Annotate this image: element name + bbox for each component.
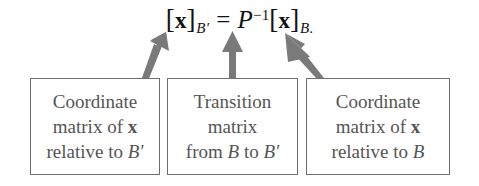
box-middle-basis-to: B′ xyxy=(263,141,279,162)
box-middle-line-3: from B to B′ xyxy=(186,139,279,164)
box-left-vector-x: x xyxy=(128,116,138,137)
box-right-line-3: relative to B xyxy=(332,139,425,164)
left-bracket-close: ] xyxy=(187,4,196,34)
callout-box-coordinate-matrix-b-prime: Coordinate matrix of x relative to B′ xyxy=(30,78,160,175)
box-middle-basis-from: B xyxy=(228,141,240,162)
box-left-line-3-pre: relative to xyxy=(46,141,127,162)
box-right-line-2-pre: matrix of xyxy=(336,116,411,137)
left-subscript-b-prime: B′ xyxy=(196,20,209,36)
matrix-inverse-exponent: −1 xyxy=(253,7,269,23)
left-bracket-open: [ xyxy=(166,4,175,34)
terminal-period: . xyxy=(309,20,313,36)
box-right-vector-x: x xyxy=(411,116,421,137)
box-right-basis-label: B xyxy=(413,141,425,162)
box-left-line-2-pre: matrix of xyxy=(53,116,128,137)
box-middle-line-2: matrix xyxy=(208,114,258,139)
box-left-line-2: matrix of x xyxy=(53,114,137,139)
right-bracket-open: [ xyxy=(269,4,278,34)
box-middle-line-3-pre: from xyxy=(186,141,228,162)
box-left-line-3: relative to B′ xyxy=(46,139,143,164)
arrow-to-transition-matrix xyxy=(222,31,243,78)
right-subscript-b: B xyxy=(299,20,309,36)
box-right-line-3-pre: relative to xyxy=(332,141,413,162)
change-of-basis-figure: [x]B′=P−1[x]B. Coordinate matrix of x re… xyxy=(0,0,479,186)
box-right-line-1: Coordinate xyxy=(336,89,420,114)
arrow-to-left-coordinate-matrix xyxy=(142,32,169,78)
equals-sign: = xyxy=(209,6,237,33)
box-left-line-1: Coordinate xyxy=(53,89,137,114)
transition-matrix-symbol: P xyxy=(237,6,252,33)
callout-box-transition-matrix: Transition matrix from B to B′ xyxy=(167,78,298,175)
box-middle-line-3-mid: to xyxy=(239,141,263,162)
box-left-basis-label: B′ xyxy=(128,141,144,162)
left-vector-x: x xyxy=(175,8,187,33)
right-vector-x: x xyxy=(279,8,291,33)
equation-formula: [x]B′=P−1[x]B. xyxy=(0,6,479,36)
callout-box-coordinate-matrix-b: Coordinate matrix of x relative to B xyxy=(306,78,450,175)
box-right-line-2: matrix of x xyxy=(336,114,420,139)
box-middle-line-1: Transition xyxy=(194,89,271,114)
arrow-to-right-coordinate-matrix xyxy=(285,33,324,78)
